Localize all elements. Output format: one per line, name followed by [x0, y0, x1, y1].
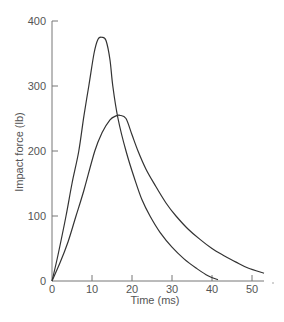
impact-force-chart: 0100200300400 01020304050 Time (ms) Impa… — [0, 0, 284, 322]
y-tick-label: 300 — [28, 80, 46, 92]
stray-dot — [272, 282, 274, 284]
y-axis-title: Impact force (lb) — [13, 112, 25, 191]
curve-b — [52, 115, 264, 281]
x-tick-label: 0 — [49, 283, 55, 295]
y-axis: 0100200300400 — [28, 15, 58, 287]
x-tick-label: 40 — [206, 283, 218, 295]
x-tick-label: 10 — [86, 283, 98, 295]
plot-area — [52, 37, 264, 281]
x-tick-label: 50 — [246, 283, 258, 295]
x-axis-title: Time (ms) — [130, 294, 179, 306]
y-tick-label: 0 — [40, 275, 46, 287]
curve-a — [52, 37, 218, 281]
y-tick-label: 100 — [28, 210, 46, 222]
x-axis: 01020304050 — [49, 275, 264, 295]
y-tick-label: 200 — [28, 145, 46, 157]
y-tick-label: 400 — [28, 15, 46, 27]
